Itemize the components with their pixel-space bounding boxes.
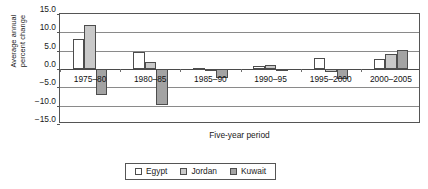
x-axis-tick-mark — [180, 69, 181, 72]
y-axis-tick-label: −5.0 — [39, 78, 56, 86]
bar-kuwait — [397, 50, 409, 69]
bar-group — [73, 14, 108, 122]
y-axis-tick-labels: 15.010.05.00.0−5.0−10.0−15.0 — [22, 9, 56, 127]
bar-jordan — [325, 69, 337, 72]
legend-label: Kuwait — [241, 167, 266, 176]
bar-egypt — [253, 66, 265, 69]
bar-egypt — [374, 59, 386, 69]
bar-group — [374, 14, 409, 122]
x-axis-tick-mark — [301, 69, 302, 72]
x-axis-category-label: 1990–95 — [241, 75, 301, 83]
x-axis-tick-mark — [241, 69, 242, 72]
legend-swatch-egypt-icon — [135, 168, 142, 175]
bar-egypt — [73, 39, 85, 69]
legend-label: Egypt — [146, 167, 167, 176]
bar-egypt — [193, 68, 205, 70]
legend-label: Jordan — [191, 167, 217, 176]
x-axis-category-label: 1995–2000 — [301, 75, 361, 83]
x-axis-category-label: 1980–85 — [120, 75, 180, 83]
y-axis-tick-label: 15.0 — [40, 5, 56, 13]
bar-jordan — [265, 65, 277, 69]
bar-group — [314, 14, 349, 122]
bar-egypt — [133, 52, 145, 69]
x-axis-tick-mark — [60, 69, 61, 72]
legend-item-kuwait[interactable]: Kuwait — [230, 167, 266, 176]
chart-legend: EgyptJordanKuwait — [125, 163, 276, 180]
y-axis-title-line-1: Average annual — [9, 0, 18, 96]
bar-group — [133, 14, 168, 122]
bar-group — [193, 14, 228, 122]
legend-item-egypt[interactable]: Egypt — [135, 167, 167, 176]
chart-figure: Average annual percent change 15.010.05.… — [0, 0, 428, 189]
bar-kuwait — [276, 69, 288, 71]
x-axis-title: Five-year period — [59, 130, 420, 140]
y-axis-tick-label: −15.0 — [35, 115, 56, 123]
legend-swatch-kuwait-icon — [230, 168, 237, 175]
bar-egypt — [314, 58, 326, 69]
y-axis-tick-label: −10.0 — [35, 96, 56, 104]
y-axis-tick-label: 5.0 — [44, 41, 56, 49]
x-axis-category-label: 1985–90 — [180, 75, 240, 83]
plot-area: 1975–801980–851985–901990–951995–2000200… — [59, 13, 420, 123]
y-axis-tick-label: 0.0 — [44, 60, 56, 68]
legend-item-jordan[interactable]: Jordan — [180, 167, 217, 176]
x-axis-tick-mark — [361, 69, 362, 72]
bar-jordan — [145, 62, 157, 69]
bar-jordan — [84, 25, 96, 69]
bar-jordan — [205, 69, 217, 71]
y-axis-tick-mark — [57, 124, 60, 125]
x-axis-category-label: 1975–80 — [60, 75, 120, 83]
bar-group — [253, 14, 288, 122]
bar-series-container — [60, 14, 419, 122]
bar-jordan — [385, 54, 397, 69]
x-axis-category-label: 2000–2005 — [361, 75, 421, 83]
x-axis-tick-mark — [120, 69, 121, 72]
legend-swatch-jordan-icon — [180, 168, 187, 175]
y-axis-tick-label: 10.0 — [40, 23, 56, 31]
